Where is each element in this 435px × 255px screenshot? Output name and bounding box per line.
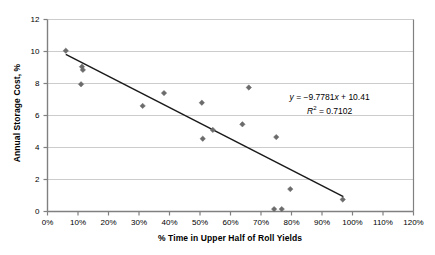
x-axis-tick-label: 120%	[394, 219, 434, 227]
trendline	[66, 54, 344, 196]
y-axis-tick-label: 8	[14, 80, 40, 88]
data-point-marker	[199, 100, 204, 105]
plot-area	[0, 0, 435, 255]
data-points	[63, 48, 345, 212]
data-point-marker	[140, 103, 145, 108]
data-point-marker	[288, 186, 293, 191]
y-axis-tick-label: 10	[14, 48, 40, 56]
axes	[44, 20, 414, 216]
equation-body: = −9.7781	[294, 92, 335, 102]
r2-value: = 0.7102	[317, 106, 353, 116]
y-axis-tick-label: 2	[14, 176, 40, 184]
data-point-marker	[200, 136, 205, 141]
scatter-chart: Annual Storage Cost, % % Time in Upper H…	[0, 0, 435, 255]
y-axis-tick-label: 0	[14, 208, 40, 216]
data-point-marker	[63, 48, 68, 53]
equation-tail: + 10.41	[339, 92, 370, 102]
data-point-marker	[161, 90, 166, 95]
y-axis-tick-label: 12	[14, 16, 40, 24]
trendline-r2-line: R2 = 0.7102	[252, 103, 408, 117]
y-axis-tick-label: 6	[14, 112, 40, 120]
trendline-equation-annotation: y = −9.7781x + 10.41 R2 = 0.7102	[252, 92, 408, 117]
data-point-marker	[340, 197, 345, 202]
data-point-marker	[240, 122, 245, 127]
data-point-marker	[274, 134, 279, 139]
y-axis-tick-label: 4	[14, 144, 40, 152]
trendline-equation-line: y = −9.7781x + 10.41	[252, 92, 408, 103]
data-point-marker	[78, 82, 83, 87]
x-axis-title: % Time in Upper Half of Roll Yields	[47, 233, 413, 243]
data-point-marker	[246, 85, 251, 90]
